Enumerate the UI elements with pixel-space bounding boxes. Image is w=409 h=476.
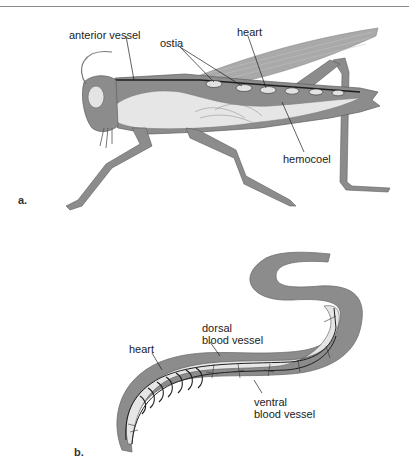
label-ventral-line2: blood vessel bbox=[254, 408, 315, 420]
label-ostia: ostia bbox=[160, 37, 183, 49]
label-ventral-line1: ventral bbox=[254, 396, 315, 408]
panel-letter-b: b. bbox=[74, 446, 84, 458]
grasshopper-eye bbox=[88, 86, 104, 108]
grasshopper-middle-leg bbox=[186, 128, 296, 206]
label-hemocoel: hemocoel bbox=[283, 153, 331, 165]
grasshopper-hind-leg bbox=[333, 58, 390, 192]
label-heart-a: heart bbox=[237, 26, 262, 38]
grasshopper-illustration bbox=[66, 28, 390, 210]
panel-letter-a: a. bbox=[18, 194, 27, 206]
label-dorsal-line2: blood vessel bbox=[202, 334, 263, 346]
label-ventral-vessel: ventral blood vessel bbox=[254, 396, 315, 420]
label-heart-b: heart bbox=[129, 343, 154, 355]
label-dorsal-line1: dorsal bbox=[202, 322, 263, 334]
circulatory-systems-illustration bbox=[0, 0, 409, 476]
grasshopper-wing bbox=[198, 28, 378, 80]
label-anterior-vessel: anterior vessel bbox=[69, 29, 141, 41]
grasshopper-front-leg bbox=[66, 128, 152, 210]
label-dorsal-vessel: dorsal blood vessel bbox=[202, 322, 263, 346]
